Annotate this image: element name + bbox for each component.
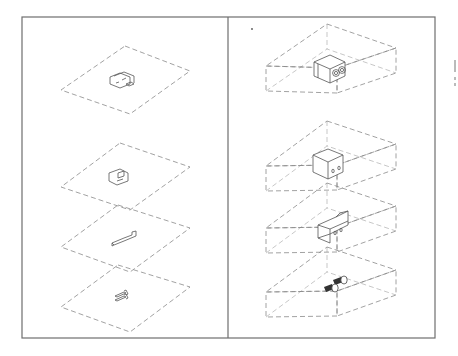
diagram-canvas <box>0 0 458 356</box>
flat-bolts <box>115 290 128 301</box>
flat-bracket <box>112 231 136 246</box>
assembled-part-object <box>314 55 345 83</box>
left-panel <box>61 46 190 332</box>
box-bolts <box>266 247 396 317</box>
layer-bracket-footprint <box>61 205 190 272</box>
layer-block-footprint <box>61 143 190 210</box>
layer-bolts-footprint <box>61 265 190 332</box>
layer-assembled-footprint <box>61 46 190 114</box>
block-object <box>313 149 343 179</box>
bolts-object <box>324 276 347 292</box>
box-bracket <box>266 183 396 253</box>
stray-dot <box>251 28 253 30</box>
flat-block <box>109 169 128 185</box>
flat-assembled-part <box>110 72 134 88</box>
bracket-object <box>318 211 348 243</box>
